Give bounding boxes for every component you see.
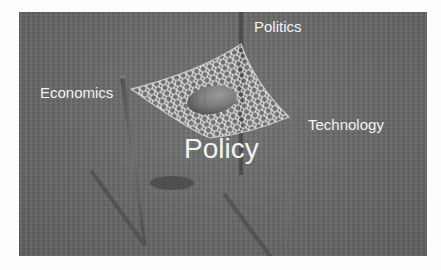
ball-shadow [150,176,194,190]
label-economics: Economics [40,85,113,100]
label-policy: Policy [184,135,259,163]
label-politics: Politics [254,19,302,34]
diagram-scene: Politics Economics Technology Policy [19,12,427,256]
right-pole [284,100,299,245]
back-pole-shadow [225,195,270,256]
label-technology: Technology [308,117,384,132]
shadows [92,172,270,256]
